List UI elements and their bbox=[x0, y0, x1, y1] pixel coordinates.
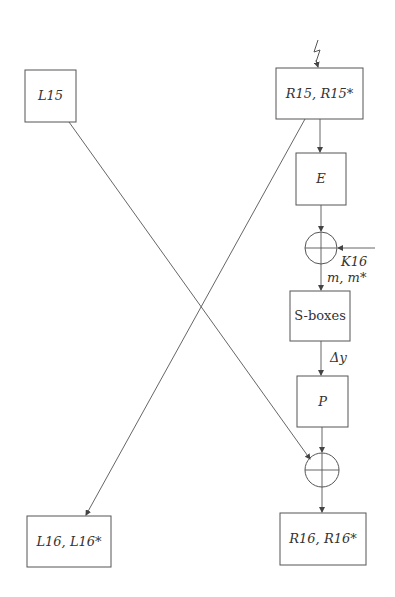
p-permutation-node: P bbox=[297, 376, 348, 427]
l16-node: L16, L16* bbox=[27, 516, 111, 567]
xor-left-node bbox=[305, 453, 339, 487]
p-label: P bbox=[317, 394, 327, 409]
l15-node: L15 bbox=[25, 70, 76, 122]
r16-label: R16, R16* bbox=[288, 531, 357, 546]
edge-l15-to-xor2 bbox=[69, 122, 310, 459]
sboxes-node: S-boxes bbox=[290, 291, 350, 341]
des-round-diagram: L15 R15, R15* E K16 m, m* S-boxes Δy P bbox=[0, 0, 395, 597]
edge-r15-to-l16 bbox=[86, 119, 305, 515]
r16-node: R16, R16* bbox=[280, 513, 366, 565]
l15-label: L15 bbox=[37, 88, 63, 103]
lightning-bolt-icon bbox=[314, 40, 320, 67]
xor-key-node bbox=[305, 232, 337, 264]
e-label: E bbox=[315, 171, 326, 186]
r15-node: R15, R15* bbox=[276, 68, 363, 119]
sbox-output-diff-label: Δy bbox=[329, 350, 347, 365]
sboxes-label: S-boxes bbox=[294, 308, 346, 323]
e-expansion-node: E bbox=[296, 153, 346, 205]
l16-label: L16, L16* bbox=[35, 534, 102, 549]
k16-label: K16 bbox=[340, 254, 367, 269]
r15-label: R15, R15* bbox=[285, 86, 354, 101]
sbox-input-label: m, m* bbox=[327, 270, 367, 285]
